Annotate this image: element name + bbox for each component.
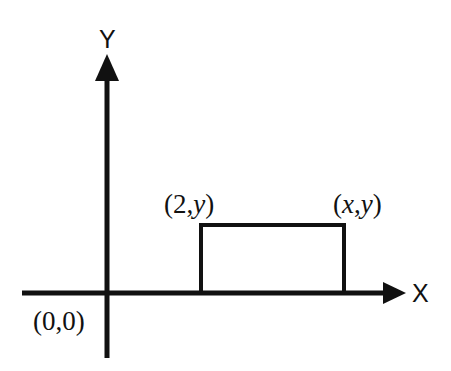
comma: , — [187, 189, 194, 219]
arrow-up-icon — [95, 54, 119, 81]
value-x: 2 — [173, 189, 187, 219]
value-y: y — [190, 189, 205, 219]
paren-open: ( — [164, 189, 173, 219]
comma: , — [354, 189, 361, 219]
diagram-canvas: Y X (0,0) (2,y) (x,y) — [0, 0, 451, 371]
arrow-right-icon — [383, 282, 406, 304]
value-y: y — [358, 189, 373, 219]
rectangle-top-right-label: (x,y) — [333, 189, 382, 219]
paren-close: ) — [205, 189, 214, 219]
paren-open: ( — [333, 189, 342, 219]
coordinate-diagram: Y X (0,0) (2,y) (x,y) — [0, 0, 451, 371]
y-axis-label: Y — [99, 25, 116, 53]
origin-label: (0,0) — [33, 306, 85, 336]
value-x: x — [341, 189, 354, 219]
rectangle-top-left-label: (2,y) — [164, 189, 214, 219]
x-axis-label: X — [412, 279, 429, 307]
paren-close: ) — [373, 189, 382, 219]
